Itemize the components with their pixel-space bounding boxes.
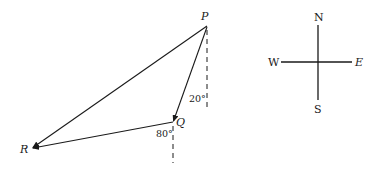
angle-label-q: 80°: [156, 128, 173, 139]
vector-qr: [33, 122, 173, 148]
compass-south-label: S: [314, 103, 322, 116]
point-label-q: Q: [176, 116, 185, 129]
compass-west-label: W: [268, 56, 280, 69]
point-label-r: R: [19, 143, 28, 156]
compass-east-label: E: [354, 56, 363, 69]
angle-label-p: 20°: [189, 93, 206, 104]
compass-rose: N S W E: [268, 11, 363, 116]
vector-pr: [33, 26, 207, 148]
vector-diagram: P Q R 20° 80° N S W E: [0, 0, 381, 169]
compass-north-label: N: [314, 11, 324, 24]
vector-pq: [174, 27, 208, 121]
point-label-p: P: [200, 10, 209, 23]
